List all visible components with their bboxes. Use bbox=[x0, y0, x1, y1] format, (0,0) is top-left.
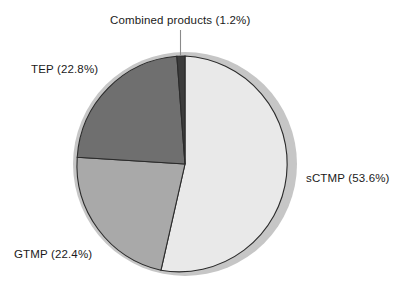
slice-label-tep: TEP (22.8%) bbox=[31, 63, 98, 77]
slice-label-combined-products: Combined products (1.2%) bbox=[110, 14, 250, 28]
slice-label-gtmp: GTMP (22.4%) bbox=[14, 248, 92, 262]
pie-chart-figure: Combined products (1.2%) TEP (22.8%) GTM… bbox=[0, 0, 406, 296]
slice-label-sctmp: sCTMP (53.6%) bbox=[306, 172, 390, 186]
